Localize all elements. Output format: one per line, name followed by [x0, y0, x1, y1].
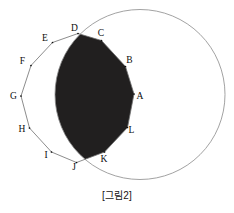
vertex-label-e: E — [42, 33, 48, 43]
vertex-label-f: F — [20, 56, 25, 66]
vertex-label-c: C — [98, 28, 104, 38]
figure-container: ABCDEFGHIJKL [그림2] — [0, 0, 234, 213]
vertex-point-d — [77, 33, 79, 35]
vertex-label-h: H — [19, 124, 26, 134]
vertex-label-a: A — [137, 91, 144, 101]
vertex-point-g — [20, 95, 22, 97]
vertex-label-d: D — [71, 23, 78, 33]
vertex-label-b: B — [126, 55, 132, 65]
vertex-point-i — [51, 151, 53, 153]
geometry-diagram: ABCDEFGHIJKL — [0, 0, 234, 213]
vertex-point-f — [30, 65, 32, 67]
vertex-point-b — [125, 66, 127, 68]
vertex-label-j: J — [72, 162, 76, 172]
vertex-point-h — [29, 127, 31, 129]
figure-caption: [그림2] — [0, 189, 234, 202]
vertex-label-k: K — [101, 154, 108, 164]
vertex-point-c — [101, 40, 103, 42]
vertex-label-i: I — [44, 150, 47, 160]
vertex-point-e — [52, 42, 54, 44]
vertex-label-l: L — [129, 125, 135, 135]
vertex-point-j — [76, 162, 78, 164]
vertex-point-a — [133, 93, 135, 95]
vertex-label-g: G — [10, 91, 17, 101]
